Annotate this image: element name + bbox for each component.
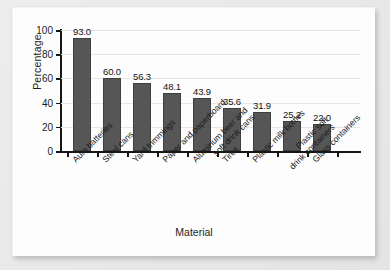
y-tick-label: 20 xyxy=(42,121,53,132)
y-tick-mark xyxy=(56,54,61,56)
y-tick-mark xyxy=(56,78,61,80)
y-tick-label: 40 xyxy=(42,97,53,108)
y-tick-mark xyxy=(56,103,61,105)
y-tick-mark xyxy=(56,127,61,129)
x-tick-mark xyxy=(187,151,189,157)
bar-chart: Percentage 02040608010093.060.056.348.14… xyxy=(13,8,375,256)
bar-value-label: 56.3 xyxy=(133,71,151,82)
bar-value-label: 31.9 xyxy=(253,100,271,111)
y-tick-mark xyxy=(56,151,61,153)
x-tick-mark xyxy=(157,151,159,157)
bar-value-label: 43.9 xyxy=(193,86,211,97)
gridline xyxy=(61,54,360,55)
x-axis-title: Material xyxy=(13,226,375,238)
y-tick-mark xyxy=(56,30,61,32)
gridline xyxy=(61,30,360,31)
bar[interactable] xyxy=(73,38,91,151)
bar-value-label: 48.1 xyxy=(163,81,181,92)
x-tick-mark xyxy=(277,151,279,157)
chart-card: Percentage 02040608010093.060.056.348.14… xyxy=(12,7,375,256)
y-tick-label: 80 xyxy=(42,49,53,60)
y-tick-label: 0 xyxy=(47,146,53,157)
bar-value-label: 93.0 xyxy=(73,26,91,37)
x-tick-mark xyxy=(127,151,129,157)
page-background: Percentage 02040608010093.060.056.348.14… xyxy=(0,0,390,270)
x-tick-mark xyxy=(67,151,69,157)
x-tick-mark xyxy=(97,151,99,157)
bar-value-label: 60.0 xyxy=(103,66,121,77)
x-tick-mark xyxy=(337,151,339,157)
y-tick-label: 100 xyxy=(36,25,53,36)
y-tick-label: 60 xyxy=(42,73,53,84)
x-tick-mark xyxy=(247,151,249,157)
